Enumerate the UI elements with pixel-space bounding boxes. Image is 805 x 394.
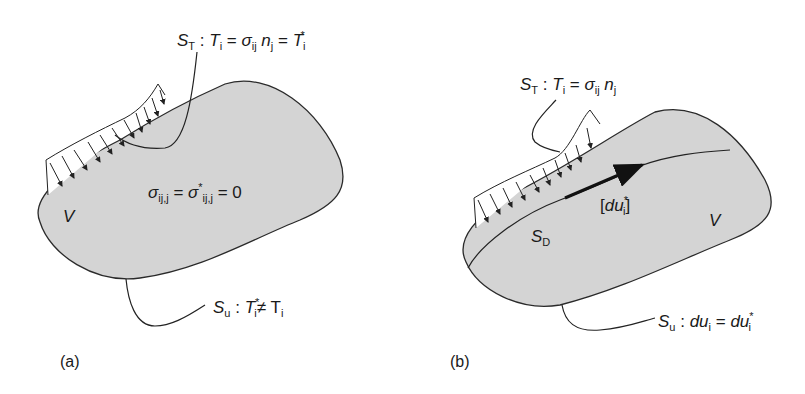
du-symbol: du — [605, 196, 624, 215]
t-symbol: T — [552, 75, 562, 94]
body-a — [38, 81, 343, 279]
bracket-close: ] — [625, 196, 630, 215]
subscript: i — [303, 40, 305, 52]
caption-a: (a) — [60, 353, 80, 371]
du-symbol: du — [690, 312, 709, 331]
volume-label-b: V — [709, 212, 720, 229]
t-symbol: T — [271, 298, 281, 317]
n-symbol: n — [257, 31, 271, 50]
leader-su-b — [562, 305, 655, 330]
leader-st-b — [532, 100, 560, 152]
s-symbol: S — [520, 75, 531, 94]
separator: : — [538, 75, 552, 94]
equilibrium-label-a: σij,j = σ*ij,j = 0 — [148, 182, 242, 204]
traction-condition-label-b: ST : Ti = σij nj — [520, 76, 616, 96]
figure-canvas — [0, 0, 805, 394]
separator: : — [195, 31, 209, 50]
displacement-condition-label-b: Su : dui = du*i — [658, 311, 751, 333]
n-symbol: n — [600, 75, 614, 94]
subscript: D — [542, 236, 550, 248]
s-symbol: S — [531, 227, 542, 246]
sigma-symbol: σ — [188, 183, 198, 202]
displacement-condition-label-a: Su : T*i≠ Ti — [213, 297, 283, 319]
separator: : — [675, 312, 689, 331]
equals: = — [273, 31, 292, 50]
leader-su-a — [126, 279, 205, 326]
equals: = 0 — [213, 183, 242, 202]
du-symbol: du — [730, 312, 749, 331]
equals: = — [711, 312, 730, 331]
sigma-symbol: σ — [584, 75, 594, 94]
s-symbol: S — [658, 312, 669, 331]
s-symbol: S — [177, 31, 188, 50]
separator: : — [230, 298, 244, 317]
discontinuity-surface-label-b: SD — [531, 228, 550, 248]
subscript: ij,j — [203, 192, 213, 204]
s-symbol: S — [213, 298, 224, 317]
subscript: i — [281, 307, 283, 319]
equals: = — [169, 183, 188, 202]
displacement-jump-label-b: [du*i] — [600, 195, 630, 217]
caption-b: (b) — [450, 353, 470, 371]
sigma-symbol: σ — [241, 31, 251, 50]
volume-label-a: V — [63, 208, 74, 225]
not-equal: ≠ — [257, 298, 271, 317]
subscript: j — [614, 84, 616, 96]
subscript: ij,j — [158, 192, 168, 204]
equals: = — [565, 75, 584, 94]
equals: = — [222, 31, 241, 50]
traction-condition-label-a: ST : Ti = σij nj = Ti* — [177, 30, 305, 52]
sigma-symbol: σ — [148, 183, 158, 202]
superscript: * — [300, 29, 304, 41]
subscript: i — [749, 321, 751, 333]
t-symbol: T — [209, 31, 219, 50]
